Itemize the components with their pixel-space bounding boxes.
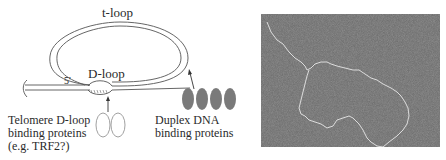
duplex-caption-line2: binding proteins [155, 127, 233, 140]
electron-micrograph [261, 14, 440, 147]
t-loop-label: t-loop [102, 6, 133, 19]
telomere-caption-line3: (e.g. TRF2?) [8, 140, 69, 153]
five-prime-label: 5' [64, 74, 71, 87]
t-loop-diagram: t-loop D-loop 5' Telomere D-loop binding… [0, 0, 255, 160]
cropped-caption-text [0, 154, 446, 160]
d-loop-label: D-loop [88, 67, 125, 80]
micrograph-image [261, 14, 440, 147]
